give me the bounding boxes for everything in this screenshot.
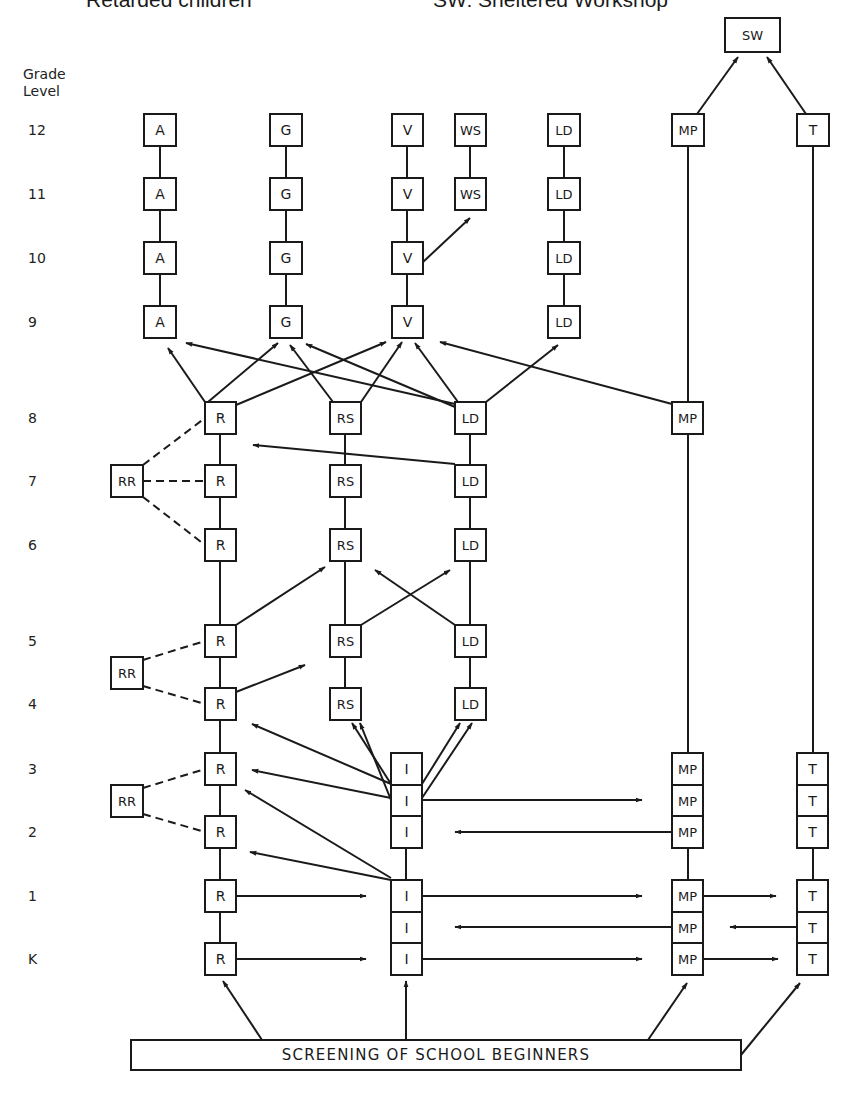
node-t25: T [797, 785, 828, 816]
arrow-connector [440, 342, 672, 404]
node-v10: V [392, 242, 423, 274]
node-i1: I [391, 880, 422, 912]
node-r1: R [205, 880, 236, 912]
node-label: V [403, 314, 413, 330]
node-v11: V [392, 178, 423, 210]
node-label: LD [555, 123, 572, 138]
node-mpk: MP [672, 943, 703, 975]
dashed-connector [143, 769, 205, 788]
arrow-connector [648, 983, 687, 1040]
node-label: MP [678, 825, 697, 840]
node-label: G [281, 314, 292, 330]
node-ld7: LD [455, 465, 486, 497]
dashed-connectors [143, 418, 205, 832]
node-mp1: MP [672, 880, 703, 912]
node-label: LD [462, 411, 479, 426]
node-r7: R [205, 465, 236, 497]
node-label: R [216, 761, 226, 777]
node-screen: SCREENING OF SCHOOL BEGINNERS [131, 1040, 741, 1070]
arrow-connector [168, 348, 205, 402]
node-label: LD [555, 187, 572, 202]
dashed-connector [143, 814, 205, 832]
node-rr23: RR [111, 785, 143, 817]
node-label: A [155, 186, 165, 202]
node-label: I [404, 824, 408, 840]
node-label: RR [118, 474, 136, 489]
node-label: V [403, 122, 413, 138]
node-label: LD [555, 251, 572, 266]
node-g9: G [270, 306, 302, 338]
node-label: SCREENING OF SCHOOL BEGINNERS [282, 1046, 590, 1064]
node-sw: SW [725, 18, 780, 52]
node-label: MP [678, 762, 697, 777]
node-mp3: MP [672, 753, 703, 785]
node-label: MP [678, 411, 697, 426]
node-label: A [155, 122, 165, 138]
node-ws12: WS [455, 114, 486, 146]
node-r3: R [205, 753, 236, 785]
node-label: T [807, 888, 817, 904]
node-mp2: MP [672, 816, 703, 848]
node-t1: T [797, 880, 828, 912]
dashed-connector [143, 686, 205, 704]
node-rs5: RS [330, 625, 361, 657]
arrow-connector [375, 570, 455, 625]
node-ws11: WS [455, 178, 486, 210]
node-label: RR [118, 666, 136, 681]
node-label: MP [678, 794, 697, 809]
node-a9: A [144, 306, 176, 338]
node-ldt12: LD [548, 114, 580, 146]
dashed-connector [143, 641, 205, 660]
arrow-connector [186, 343, 455, 404]
arrow-connector [236, 665, 305, 692]
node-label: R [216, 537, 226, 553]
arrow-connector [422, 723, 472, 798]
arrow-connector [767, 57, 806, 114]
node-g12: G [270, 114, 302, 146]
node-label: R [216, 951, 226, 967]
arrow-connector [486, 345, 558, 402]
node-label: R [216, 410, 226, 426]
dashed-connector [143, 497, 205, 545]
node-v12: V [392, 114, 423, 146]
arrow-connector [422, 723, 460, 784]
node-label: R [216, 473, 226, 489]
node-mp12: MP [672, 114, 704, 146]
arrow-connector [423, 218, 470, 262]
node-label: WS [460, 187, 481, 202]
node-label: T [807, 761, 817, 777]
node-mp05: MP [672, 912, 703, 943]
node-g11: G [270, 178, 302, 210]
node-label: MP [678, 123, 697, 138]
node-rs8: RS [330, 402, 361, 434]
node-label: I [404, 793, 408, 809]
node-label: V [403, 250, 413, 266]
node-rs6: RS [330, 529, 361, 561]
node-ik: I [391, 943, 422, 975]
program-flow-diagram: SWAAAAGGGGVVVVWSWSLDLDLDLDMPTRRRRRRRRRRR… [0, 0, 863, 1103]
node-label: LD [462, 634, 479, 649]
arrow-connector [697, 57, 738, 114]
node-r5: R [205, 625, 236, 657]
node-mp8: MP [672, 402, 703, 434]
node-label: SW [742, 28, 763, 43]
node-label: WS [460, 123, 481, 138]
node-label: G [281, 122, 292, 138]
node-r6: R [205, 529, 236, 561]
node-label: MP [678, 952, 697, 967]
arrow-connector [361, 570, 450, 625]
node-i05: I [391, 912, 422, 943]
node-a11: A [144, 178, 176, 210]
node-label: RR [118, 794, 136, 809]
node-label: RS [337, 411, 354, 426]
node-a12: A [144, 114, 176, 146]
node-mp25: MP [672, 785, 703, 816]
node-rk: R [205, 943, 236, 975]
node-ldt10: LD [548, 242, 580, 274]
dashed-connector [143, 418, 205, 465]
node-label: R [216, 824, 226, 840]
node-t3: T [797, 753, 828, 785]
node-rr45: RR [111, 657, 143, 689]
node-label: MP [678, 889, 697, 904]
node-ld4: LD [455, 688, 486, 720]
